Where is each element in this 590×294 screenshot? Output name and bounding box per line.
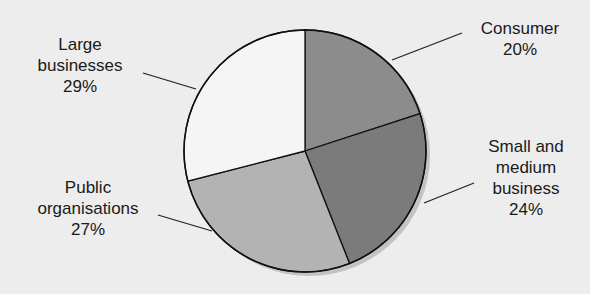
leader-line-consumer <box>392 33 462 60</box>
leader-line-large <box>143 73 196 89</box>
label-public-organisations: Public organisations 27% <box>18 177 158 240</box>
label-large-businesses: Large businesses 29% <box>20 34 140 97</box>
leader-line-small <box>424 183 474 203</box>
label-consumer: Consumer 20% <box>462 18 578 60</box>
label-small-medium-business: Small and medium business 24% <box>472 136 580 220</box>
